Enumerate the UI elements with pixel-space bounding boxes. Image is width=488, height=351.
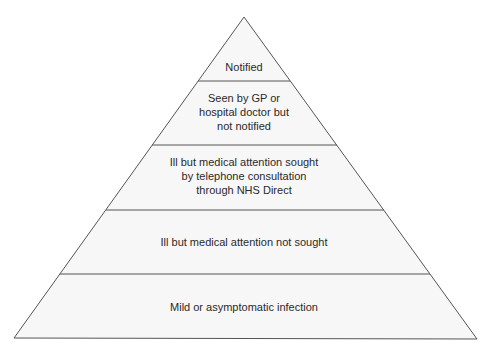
level-line: through NHS Direct (170, 183, 319, 197)
level-telephone-consultation: Ill but medical attention sought by tele… (170, 155, 319, 197)
level-mild-asymptomatic: Mild or asymptomatic infection (170, 300, 318, 314)
level-line: not notified (199, 119, 289, 133)
level-line: Ill but medical attention not sought (161, 235, 328, 249)
level-line: Notified (225, 60, 262, 74)
level-line: hospital doctor but (199, 105, 289, 119)
level-line: by telephone consultation (170, 169, 319, 183)
level-line: Ill but medical attention sought (170, 155, 319, 169)
level-not-sought: Ill but medical attention not sought (161, 235, 328, 249)
level-notified: Notified (225, 60, 262, 74)
level-seen-by-gp: Seen by GP or hospital doctor but not no… (199, 91, 289, 133)
level-line: Mild or asymptomatic infection (170, 300, 318, 314)
level-line: Seen by GP or (199, 91, 289, 105)
